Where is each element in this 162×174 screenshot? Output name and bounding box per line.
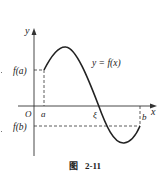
x-axis-label: x [150, 106, 156, 117]
figure-canvas: y x O a b ξ f(a) f(b) y = f(x) 图 2-11 [0, 0, 162, 174]
a-label: a [41, 109, 46, 119]
caption-prefix: 图 [69, 161, 78, 171]
y-axis-arrow-icon [32, 28, 37, 35]
fb-label: f(b) [13, 122, 27, 133]
caption-number: 2-11 [85, 161, 102, 171]
origin-label: O [25, 109, 32, 119]
curve-label: y = f(x) [91, 58, 121, 69]
b-label: b [142, 112, 147, 122]
edge-mark [1, 72, 2, 73]
xi-label: ξ [93, 110, 97, 120]
fa-label: f(a) [13, 66, 27, 77]
y-axis-label: y [24, 25, 30, 36]
edge-mark [1, 131, 2, 132]
